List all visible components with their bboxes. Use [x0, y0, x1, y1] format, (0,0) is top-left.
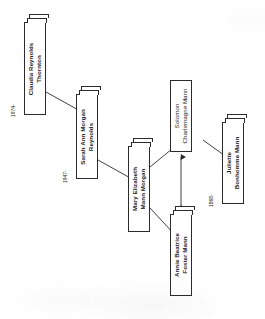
person-name-claudia: Claudia Reynolds Thornton	[27, 42, 43, 95]
person-name-mary: Mary Elizabeth Mann Morgan	[131, 167, 147, 211]
person-name-line1: Juliette	[225, 152, 232, 174]
person-node-mary[interactable]: Mary Elizabeth Mann Morgan	[128, 146, 150, 232]
person-name-solomon: Solomon Charlemagne Mann	[173, 88, 189, 143]
person-date-juliette: 1868-	[209, 194, 214, 207]
person-date-sarah: 1947-	[63, 170, 68, 183]
person-name-line1: Mary Elizabeth	[131, 167, 138, 211]
person-node-sarah[interactable]: Sarah Ann Morgan Reynolds	[76, 94, 98, 179]
person-name-juliette: Juliette Bonhomme Mann	[225, 137, 241, 190]
person-name-line2: Charlemagne Mann	[181, 88, 188, 143]
person-name-line2: Reynolds	[87, 122, 94, 150]
family-tree-canvas: Claudia Reynolds Thornton 1974- Sarah An…	[0, 0, 265, 319]
person-name-annie: Annie Beatrice Foster Mann	[173, 233, 189, 277]
person-node-juliette[interactable]: Juliette Bonhomme Mann	[222, 122, 244, 204]
person-name-line2: Foster Mann	[181, 236, 188, 273]
person-node-claudia[interactable]: Claudia Reynolds Thornton	[24, 22, 46, 115]
person-date-claudia: 1974-	[11, 104, 16, 117]
person-name-line1: Annie Beatrice	[173, 233, 180, 277]
person-node-solomon[interactable]: Solomon Charlemagne Mann	[170, 80, 192, 152]
person-name-line1: Sarah Ann Morgan	[79, 109, 86, 165]
person-name-sarah: Sarah Ann Morgan Reynolds	[79, 109, 95, 165]
person-name-line2: Bonhomme Mann	[233, 137, 240, 190]
person-name-line2: Mann Morgan	[139, 169, 146, 210]
person-node-annie[interactable]: Annie Beatrice Foster Mann	[170, 214, 192, 296]
person-name-line1: Solomon	[173, 104, 180, 129]
person-name-line2: Thornton	[35, 55, 42, 83]
person-name-line1: Claudia Reynolds	[27, 42, 34, 95]
